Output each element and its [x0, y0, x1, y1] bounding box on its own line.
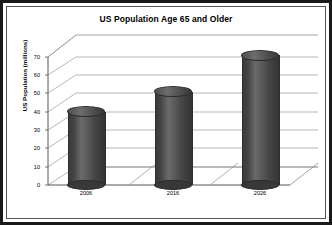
chart-figure: US Population Age 65 and Older	[0, 0, 332, 225]
bar-2026	[242, 55, 278, 185]
y-tick-label: 30	[18, 127, 40, 133]
y-tick-label: 0	[18, 182, 40, 188]
bar-body	[155, 92, 193, 185]
bar-body	[242, 55, 280, 185]
bar-base-ellipse	[241, 180, 279, 190]
y-tick-label: 60	[18, 72, 40, 78]
plot-area: US Population (millions) 70 60 50 40 30 …	[0, 0, 332, 225]
bar-base-ellipse	[67, 180, 105, 190]
bar-2006	[68, 112, 104, 185]
y-tick-label: 20	[18, 145, 40, 151]
x-tick-label-2026: 2026	[237, 190, 283, 196]
x-tick-label-2016: 2016	[150, 190, 196, 196]
bar-body	[68, 112, 106, 185]
bar-2016	[155, 92, 191, 185]
y-tick-label: 40	[18, 109, 40, 115]
bar-base-ellipse	[154, 180, 192, 190]
y-tick-label: 70	[18, 54, 40, 60]
x-tick-label-2006: 2006	[63, 190, 109, 196]
bar-top-ellipse	[241, 50, 279, 61]
y-tick-label: 50	[18, 90, 40, 96]
y-tick-label: 10	[18, 164, 40, 170]
